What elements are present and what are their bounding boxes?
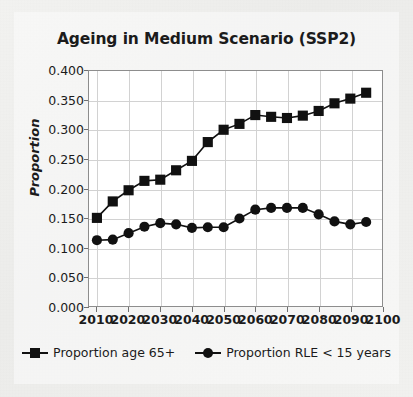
square-marker-icon xyxy=(187,156,197,166)
circle-marker-icon xyxy=(187,223,197,233)
y-tick-mark xyxy=(84,307,89,308)
circle-marker-icon xyxy=(266,203,276,213)
y-tick-label: 0.300 xyxy=(28,122,84,137)
circle-marker-icon xyxy=(108,235,118,245)
chart-legend: Proportion age 65+Proportion RLE < 15 ye… xyxy=(0,345,413,360)
circle-marker-icon xyxy=(282,203,292,213)
circle-marker-icon xyxy=(314,209,324,219)
legend-item[interactable]: Proportion age 65+ xyxy=(22,345,175,360)
circle-marker-icon xyxy=(171,219,181,229)
circle-marker-icon xyxy=(250,205,260,215)
chart-title: Ageing in Medium Scenario (SSP2) xyxy=(0,30,413,48)
square-marker-icon xyxy=(124,185,134,195)
square-marker-icon xyxy=(92,213,102,223)
circle-marker-icon xyxy=(345,219,355,229)
circle-marker-icon xyxy=(155,218,165,228)
square-marker-icon xyxy=(250,110,260,120)
y-axis-ticks: 0.4000.3500.3000.2500.2000.1500.1000.050… xyxy=(24,70,84,307)
circle-marker-icon xyxy=(329,216,339,226)
legend-item[interactable]: Proportion RLE < 15 years xyxy=(195,345,391,360)
circle-marker-icon xyxy=(92,235,102,245)
circle-marker-icon xyxy=(195,346,221,360)
legend-label: Proportion RLE < 15 years xyxy=(226,345,391,360)
plot-area xyxy=(88,70,383,307)
square-marker-icon xyxy=(345,94,355,104)
circle-marker-icon xyxy=(203,222,213,232)
legend-label: Proportion age 65+ xyxy=(53,345,175,360)
square-marker-icon xyxy=(203,137,213,147)
series-layer xyxy=(89,71,382,306)
y-tick-label: 0.100 xyxy=(28,240,84,255)
square-marker-icon xyxy=(361,88,371,98)
x-tick-label: 2100 xyxy=(360,312,406,327)
y-tick-label: 0.050 xyxy=(28,270,84,285)
circle-marker-icon xyxy=(361,217,371,227)
y-tick-label: 0.250 xyxy=(28,151,84,166)
figure-container: Ageing in Medium Scenario (SSP2) Proport… xyxy=(0,0,413,397)
y-tick-label: 0.150 xyxy=(28,211,84,226)
square-marker-icon xyxy=(155,175,165,185)
x-axis-ticks: 2010202020302040205020602070208020902100 xyxy=(88,312,383,330)
square-marker-icon xyxy=(139,176,149,186)
y-tick-label: 0.400 xyxy=(28,63,84,78)
square-marker-icon xyxy=(30,348,40,358)
square-marker-icon xyxy=(22,346,48,360)
circle-marker-icon xyxy=(139,222,149,232)
square-marker-icon xyxy=(282,113,292,123)
square-marker-icon xyxy=(266,112,276,122)
y-tick-label: 0.350 xyxy=(28,92,84,107)
y-tick-label: 0.200 xyxy=(28,181,84,196)
square-marker-icon xyxy=(298,111,308,121)
circle-marker-icon xyxy=(219,222,229,232)
square-marker-icon xyxy=(329,98,339,108)
series-line xyxy=(97,208,366,240)
square-marker-icon xyxy=(219,125,229,135)
square-marker-icon xyxy=(234,119,244,129)
circle-marker-icon xyxy=(234,213,244,223)
circle-marker-icon xyxy=(298,203,308,213)
circle-marker-icon xyxy=(124,228,134,238)
square-marker-icon xyxy=(108,196,118,206)
square-marker-icon xyxy=(314,106,324,116)
series-rle-under15 xyxy=(92,203,371,245)
series-age65plus xyxy=(92,88,371,223)
series-line xyxy=(97,93,366,218)
square-marker-icon xyxy=(171,165,181,175)
circle-marker-icon xyxy=(203,348,213,358)
